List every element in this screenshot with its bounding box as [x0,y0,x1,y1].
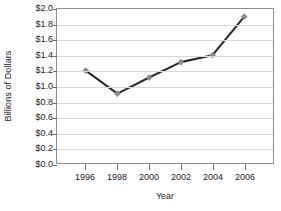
plot-area [56,8,274,164]
chart-figure: Billions of Dollars $0.0$0.2$0.4$0.6$0.8… [0,0,281,211]
data-point-marker [177,59,184,66]
x-tick-label: 1998 [107,172,127,182]
y-tick-mark [53,25,57,26]
gridline [57,40,273,41]
gridline [57,134,273,135]
x-tick-label: 2006 [235,172,255,182]
gridline [57,71,273,72]
y-axis-title: Billions of Dollars [0,0,16,172]
y-axis-tick-labels: $0.0$0.2$0.4$0.6$0.8$1.0$1.2$1.4$1.6$1.8… [16,8,55,164]
x-tick-mark [149,164,150,170]
x-tick-mark [213,164,214,170]
y-tick-mark [53,40,57,41]
y-tick-label: $0.4 [35,128,53,138]
x-tick-mark [245,164,246,170]
y-tick-label: $1.4 [35,50,53,60]
gridline [57,118,273,119]
y-tick-label: $0.8 [35,97,53,107]
y-tick-mark [53,71,57,72]
y-tick-mark [53,9,57,10]
y-axis-title-text: Billions of Dollars [3,51,13,122]
y-tick-label: $0.0 [35,159,53,169]
y-tick-mark [53,118,57,119]
y-tick-mark [53,149,57,150]
gridline [57,56,273,57]
x-axis-title: Year [56,191,274,201]
y-tick-label: $2.0 [35,3,53,13]
x-tick-mark [181,164,182,170]
x-tick-mark [85,164,86,170]
gridline [57,87,273,88]
y-tick-label: $0.6 [35,112,53,122]
x-tick-label: 1996 [75,172,95,182]
x-axis-tick-marks [56,164,274,171]
x-tick-label: 2000 [139,172,159,182]
y-tick-mark [53,134,57,135]
y-tick-label: $0.2 [35,143,53,153]
x-tick-label: 2002 [171,172,191,182]
y-tick-label: $1.0 [35,81,53,91]
gridline [57,25,273,26]
gridline [57,149,273,150]
gridline [57,103,273,104]
x-tick-mark [117,164,118,170]
y-tick-label: $1.6 [35,34,53,44]
y-tick-mark [53,87,57,88]
x-axis-tick-labels: 199619982000200220042006 [56,172,274,186]
y-tick-label: $1.2 [35,65,53,75]
y-tick-label: $1.8 [35,19,53,29]
x-tick-label: 2004 [203,172,223,182]
series-line-chart [57,9,273,163]
y-tick-mark [53,103,57,104]
y-tick-mark [53,56,57,57]
